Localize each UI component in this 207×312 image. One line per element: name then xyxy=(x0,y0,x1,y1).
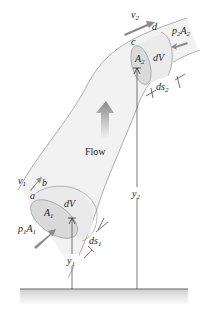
p1A1-arrow-icon xyxy=(34,229,56,249)
point-a-label: a xyxy=(30,190,35,201)
ds2-label: ds2 xyxy=(156,81,169,94)
dV-upper-label: dV xyxy=(153,52,166,63)
v2-label: v2 xyxy=(131,9,139,22)
ds1-dim-line-b xyxy=(84,250,92,258)
ds2-dim-line-a xyxy=(175,74,185,80)
ground-shading xyxy=(20,289,188,305)
ds1-label: ds1 xyxy=(89,235,101,248)
point-c-label: c xyxy=(131,36,136,47)
ds1-dim-line-a xyxy=(96,222,108,232)
flow-label: Flow xyxy=(85,146,106,157)
p1A1-label: p1A1 xyxy=(17,223,36,236)
dV-lower-label: dV xyxy=(64,198,77,209)
point-b-label: b xyxy=(42,177,47,188)
ds2-dim-line-b xyxy=(146,90,156,96)
bernoulli-flow-diagram: Flow y1 y2 v1 b a p1A1 A1 dV ds1 v2 d c … xyxy=(0,0,207,312)
v1-label: v1 xyxy=(18,175,26,188)
